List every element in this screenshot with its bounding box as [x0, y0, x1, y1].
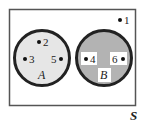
set-b-label: B	[100, 68, 108, 82]
set-b-label-group: B	[98, 68, 111, 82]
point-dot	[23, 57, 27, 61]
point-dot	[59, 57, 63, 61]
point-dot	[84, 57, 88, 61]
universe-label: S	[130, 108, 137, 123]
point-label: 5	[51, 53, 57, 65]
point-label: 6	[112, 53, 118, 65]
venn-diagram: 1 2 3 5 A 4 6 B S	[0, 0, 143, 124]
point-label: 4	[90, 53, 96, 65]
set-a-label: A	[37, 68, 46, 82]
point-label: 2	[43, 36, 49, 48]
point-dot	[37, 40, 41, 44]
point-label: 3	[29, 53, 35, 65]
point-6: 6	[110, 52, 127, 65]
point-dot	[118, 18, 122, 22]
point-label: 1	[124, 14, 130, 26]
point-dot	[121, 57, 125, 61]
point-4: 4	[81, 52, 97, 65]
